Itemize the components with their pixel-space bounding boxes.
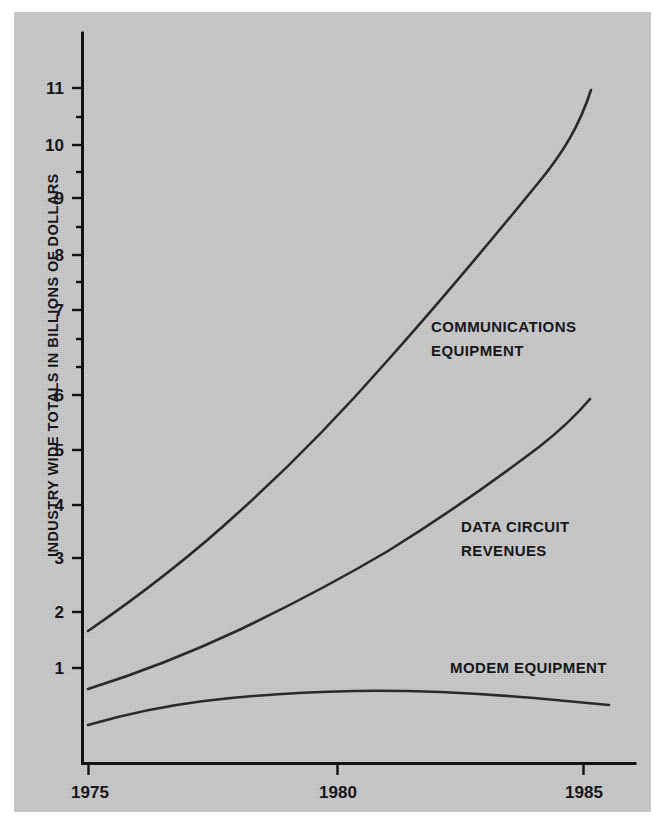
y-tick-label-1: 1	[55, 659, 64, 678]
series-label-communications-equipment-line2: EQUIPMENT	[431, 342, 524, 359]
figure-panel: INDUSTRY WIDE TOTALS IN BILLIONS OF DOLL…	[14, 12, 651, 812]
y-tick-label-8: 8	[55, 246, 64, 265]
y-tick-label-7: 7	[55, 301, 64, 320]
line-chart: INDUSTRY WIDE TOTALS IN BILLIONS OF DOLL…	[14, 12, 651, 812]
y-tick-label-10: 10	[45, 136, 64, 155]
y-tick-label-5: 5	[55, 441, 64, 460]
x-tick-label-1980: 1980	[319, 783, 357, 802]
x-tick-label-1975: 1975	[71, 783, 109, 802]
y-tick-label-3: 3	[55, 549, 64, 568]
y-tick-label-4: 4	[55, 496, 65, 515]
y-tick-marks	[72, 88, 82, 668]
y-tick-label-11: 11	[46, 79, 64, 98]
series-label-data-circuit-revenues-line2: REVENUES	[461, 542, 547, 559]
x-tick-label-1985: 1985	[565, 783, 603, 802]
series-label-modem-equipment: MODEM EQUIPMENT	[450, 659, 607, 676]
series-label-data-circuit-revenues-line1: DATA CIRCUIT	[461, 518, 570, 535]
y-tick-label-9: 9	[55, 189, 64, 208]
series-line-modem-equipment	[88, 691, 609, 725]
series-label-communications-equipment-line1: COMMUNICATIONS	[431, 318, 576, 335]
y-tick-label-2: 2	[55, 603, 64, 622]
y-tick-label-6: 6	[55, 386, 64, 405]
